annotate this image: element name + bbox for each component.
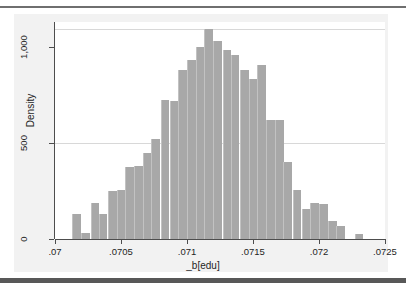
histogram-bars [55, 22, 385, 239]
histogram-bar [161, 100, 170, 239]
histogram-bar [266, 120, 275, 239]
x-axis-line [55, 239, 385, 240]
histogram-bar [125, 167, 134, 239]
x-axis-tick-label: .071 [178, 246, 197, 257]
y-axis-line [54, 22, 55, 239]
y-axis-tick-label: 1,000 [0, 41, 46, 53]
x-axis-tick [319, 239, 320, 244]
x-axis-tick-label: .0715 [241, 246, 265, 257]
x-axis-tick [121, 239, 122, 244]
histogram-bar [310, 203, 319, 239]
y-axis-tick-label: 500 [0, 137, 46, 149]
x-axis-tick-label: .0725 [373, 246, 397, 257]
histogram-bar [231, 55, 240, 239]
histogram-bar [187, 60, 196, 239]
histogram-bar [257, 65, 266, 239]
top-divider [0, 6, 406, 8]
histogram-bar [240, 70, 249, 239]
histogram-bar [319, 204, 328, 239]
x-axis-tick [55, 239, 56, 244]
histogram-bar [293, 190, 302, 239]
histogram-bar [99, 214, 108, 239]
histogram-bar [134, 166, 143, 239]
x-axis-tick [253, 239, 254, 244]
histogram-bar [108, 191, 117, 239]
histogram-bar [72, 214, 81, 239]
histogram-bar [151, 139, 160, 239]
chart-screenshot: 05001,000 .07.0705.071.0715.072.0725 Den… [0, 0, 406, 292]
histogram-bar [178, 70, 187, 239]
x-axis-tick-label: .07 [48, 246, 61, 257]
y-axis-tick [49, 47, 54, 48]
x-axis-tick [385, 239, 386, 244]
histogram-bar [283, 162, 292, 239]
y-axis-tick [49, 143, 54, 144]
bottom-divider [0, 278, 406, 283]
histogram-bar [336, 226, 345, 239]
x-axis-tick-label: .072 [310, 246, 329, 257]
y-axis-tick-label: 0 [0, 233, 46, 245]
y-axis-title: Density [25, 94, 36, 127]
y-axis-tick [49, 239, 54, 240]
plot-area [55, 22, 385, 239]
x-axis-tick [187, 239, 188, 244]
x-axis-title: _b[edu] [0, 260, 406, 271]
x-axis-tick-label: .0705 [109, 246, 133, 257]
histogram-bar [213, 41, 222, 239]
histogram-bar [204, 29, 213, 239]
